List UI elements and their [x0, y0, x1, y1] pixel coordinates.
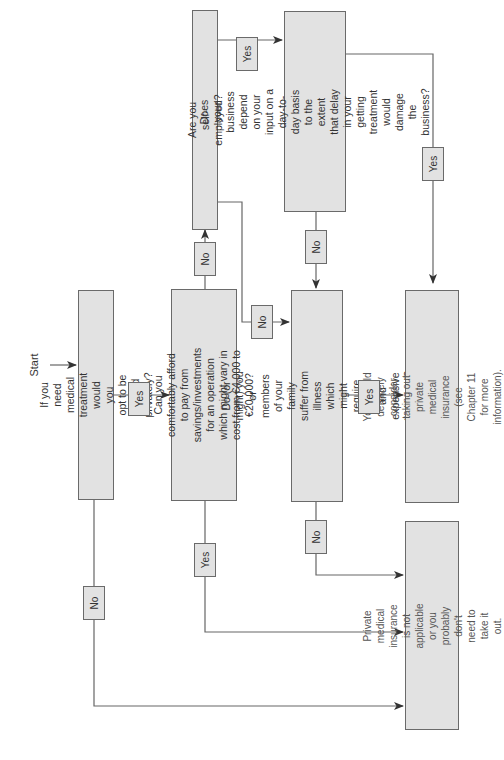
decision-text: Does your business depend on your input … — [198, 88, 432, 135]
edge-label-q3-yes: Yes — [236, 37, 258, 71]
decision-private-treatment: If you need medical treatment would you … — [78, 290, 114, 500]
decision-business-depends: Does your business depend on your input … — [284, 11, 346, 212]
edge-label-q1-no: No — [83, 586, 105, 620]
edge-label-q4-yes: Yes — [422, 147, 444, 181]
edge-label-q2-yes: Yes — [194, 543, 216, 577]
outcome-text: You should definitely consider taking ou… — [361, 369, 504, 425]
edge-label-q5-yes: Yes — [358, 380, 380, 414]
edge-label-q1-yes: Yes — [128, 382, 150, 416]
decision-family-illness: Do (or might) you or members of your fam… — [291, 290, 343, 502]
outcome-text: Private medical insurance is not applica… — [361, 603, 504, 648]
edge-label-q2-no: No — [194, 242, 216, 276]
edge-label-q3-no: No — [251, 305, 273, 339]
outcome-consider-insurance: You should definitely consider taking ou… — [405, 290, 459, 503]
edge-label-q4-no: No — [305, 230, 327, 264]
edge-label-q5-no: No — [305, 520, 327, 554]
outcome-not-applicable: Private medical insurance is not applica… — [405, 521, 459, 730]
